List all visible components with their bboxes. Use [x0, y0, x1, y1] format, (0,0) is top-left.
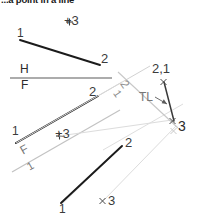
frontal-point-3-label: +3	[55, 127, 70, 140]
auxiliary-point-view-label: 2,1	[152, 62, 170, 75]
auxiliary-view-1-geometry	[155, 79, 176, 124]
frontal-point-2-label: 2	[89, 85, 96, 98]
fold-hf-label-f: F	[21, 79, 28, 91]
auxiliary-true-length-line	[164, 82, 174, 121]
projection-line-aux-b	[104, 126, 176, 200]
fold-hf-label-h: H	[20, 63, 29, 75]
drawing-canvas	[0, 0, 199, 218]
horizontal-point-2-label: 2	[101, 52, 108, 65]
projection-lines	[16, 66, 183, 206]
true-length-leader-arrow	[155, 97, 167, 104]
auxiliary2-point-1-label: 1	[59, 203, 66, 215]
horizontal-view-geometry	[20, 19, 100, 66]
frontal-point-1-label: 1	[12, 125, 19, 137]
projection-line-3	[59, 120, 172, 136]
horizontal-point-3-label: +3	[64, 14, 79, 27]
auxiliary-point-3-label: 3	[178, 119, 186, 133]
auxiliary-view-2-geometry	[61, 128, 177, 204]
auxiliary2-point-3-marker	[100, 198, 106, 204]
auxiliary-point-view-marker	[161, 79, 167, 85]
auxiliary2-point-3-label: 3	[108, 194, 115, 207]
descriptive-geometry-figure: ...a point in a line	[0, 0, 199, 218]
auxiliary2-point-2-label: 2	[125, 136, 132, 149]
horizontal-point-1-label: 1	[17, 27, 24, 39]
horizontal-line-1-2	[20, 40, 100, 65]
true-length-label: TL	[139, 91, 153, 103]
